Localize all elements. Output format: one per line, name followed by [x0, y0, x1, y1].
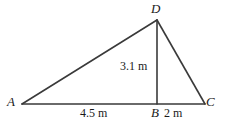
vertex-label-B: B [151, 106, 159, 119]
geometry-figure: D A B C 3.1 m 4.5 m 2 m [0, 0, 226, 127]
vertex-label-C: C [206, 95, 215, 108]
measurement-label-height: 3.1 m [120, 60, 147, 72]
triangle-drawing [0, 0, 226, 127]
segment-DC [157, 20, 205, 104]
measurement-label-base-ab: 4.5 m [80, 107, 107, 119]
measurement-label-base-bc: 2 m [164, 107, 182, 119]
vertex-label-D: D [151, 2, 160, 15]
vertex-label-A: A [7, 95, 15, 108]
